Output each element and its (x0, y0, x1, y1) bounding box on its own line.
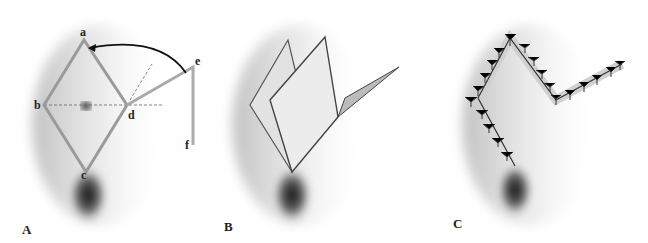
vertex-a: a (80, 25, 86, 39)
vertex-f: f (185, 138, 190, 152)
panel-b: B (224, 25, 399, 234)
panel-c: C (453, 25, 625, 231)
figure: a b c d e f A B (0, 0, 648, 243)
center-point (81, 102, 91, 110)
panel-label-b: B (224, 219, 233, 234)
vertex-c: c (81, 168, 87, 182)
panel-label-a: A (22, 222, 32, 237)
shadow-region (66, 163, 110, 227)
panel-a: a b c d e f A (22, 25, 201, 237)
vertex-b: b (34, 98, 41, 112)
vertex-e: e (195, 54, 201, 68)
panel-label-c: C (453, 216, 462, 231)
vertex-d: d (128, 108, 135, 122)
shadow-region (495, 160, 535, 220)
